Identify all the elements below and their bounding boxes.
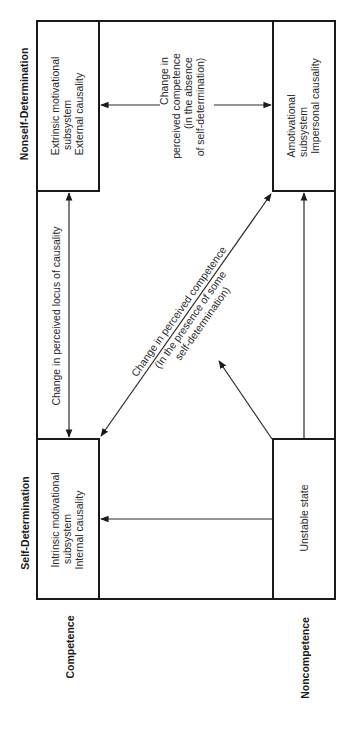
extrinsic-line-1: Extrinsic motivational (49, 57, 61, 156)
extrinsic-line-2: subsystem (61, 100, 73, 150)
extrinsic-box-text: Extrinsic motivational subsystem Externa… (49, 57, 85, 156)
intrinsic-box-text: Intrinsic motivational subsystem Interna… (49, 472, 85, 569)
arrow-unstable-to-center (219, 361, 272, 439)
extrinsic-line-3: External causality (73, 72, 85, 155)
intrinsic-line-3: Internal causality (73, 490, 85, 570)
locus-label: Change in perceived locus of causality (50, 226, 62, 406)
intrinsic-line-2: subsystem (61, 514, 73, 564)
unstable-line-1: Unstable state (298, 484, 310, 551)
amotivational-line-2: subsystem (297, 107, 309, 157)
intrinsic-line-1: Intrinsic motivational (49, 472, 61, 567)
label-self-determination: Self-Determination (19, 476, 31, 569)
absence-line-1: Change in (158, 57, 170, 105)
absence-line-3: (in the absence (182, 57, 194, 129)
amotivational-box (273, 21, 335, 191)
absence-label: Change in perceived competence (in the a… (158, 53, 206, 159)
amotivational-box-text: Amotivational subsystem Impersonal causa… (285, 57, 321, 157)
absence-line-4: of self-determination) (194, 58, 206, 157)
amotivational-line-1: Amotivational (285, 94, 297, 157)
label-nonself-determination: Nonself-Determination (18, 48, 30, 161)
amotivational-line-3: Impersonal causality (309, 57, 321, 153)
label-noncompetence: Noncompetence (299, 617, 311, 699)
motivation-diagram: Nonself-Determination Self-Determination… (0, 0, 351, 730)
absence-line-2: perceived competence (170, 53, 182, 159)
label-competence: Competence (64, 615, 76, 678)
